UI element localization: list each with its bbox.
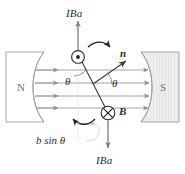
- south-pole-magnet: [141, 52, 179, 122]
- physics-figure: IBa IBa N S n B θ θ b sin θ: [0, 0, 185, 174]
- normal-vector-arrow: [93, 61, 126, 84]
- rotation-arrow-bottom: [73, 119, 95, 124]
- figure-canvas: [0, 0, 185, 174]
- north-pole-magnet: [6, 52, 44, 122]
- angle-arc-left: [74, 71, 86, 77]
- current-out-of-page-symbol: [72, 51, 85, 64]
- magnetic-field-lines: [35, 70, 149, 108]
- rotation-arrow-top: [88, 42, 110, 47]
- pole-face-arcs: [33, 52, 152, 122]
- angle-arc-right: [108, 73, 113, 84]
- current-into-page-symbol: [101, 106, 115, 120]
